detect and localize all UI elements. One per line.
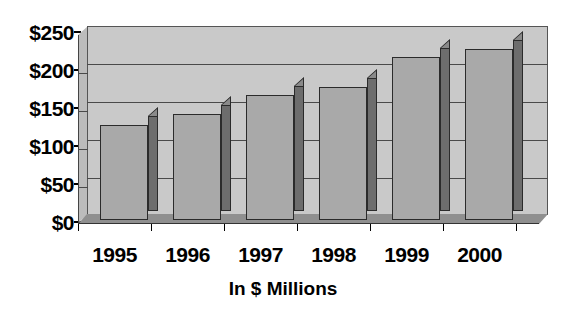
bar-1996[interactable] — [173, 114, 221, 220]
x-tick-mark-2 — [224, 224, 225, 231]
y-tick-label-50: $50 — [40, 174, 74, 195]
bar-chart: $250 $200 $150 $100 $50 $0 — [0, 0, 566, 311]
bar-side-1997 — [294, 86, 304, 211]
x-tick-mark-5 — [443, 224, 444, 231]
bar-1999[interactable] — [392, 57, 440, 220]
plot-floor-front-edge — [78, 223, 539, 224]
x-axis-label-2000: 2000 — [443, 244, 516, 266]
x-tick-mark-6 — [516, 224, 517, 231]
bar-cap-1995 — [100, 116, 148, 125]
plot-area — [78, 26, 548, 223]
gridline-side-200 — [78, 73, 88, 74]
bar-front-1996 — [173, 114, 221, 220]
y-tick-label-100: $100 — [29, 136, 74, 157]
x-tick-mark-3 — [297, 224, 298, 231]
y-tick-label-0: $0 — [52, 212, 74, 233]
bar-side-1999 — [440, 48, 450, 211]
x-axis-label-1995: 1995 — [78, 244, 151, 266]
bar-side-1995 — [148, 116, 158, 211]
bar-front-1997 — [246, 95, 294, 220]
x-axis-title: In $ Millions — [0, 278, 566, 300]
x-axis-label-1996: 1996 — [151, 244, 224, 266]
bar-side-1996 — [221, 105, 231, 211]
y-tick-label-200: $200 — [29, 60, 74, 81]
bar-side-1998 — [367, 78, 377, 211]
bar-front-1995 — [100, 125, 148, 220]
x-tick-mark-4 — [370, 224, 371, 231]
gridline-side-50 — [78, 187, 88, 188]
x-axis-label-1999: 1999 — [370, 244, 443, 266]
y-tick-label-250: $250 — [29, 22, 74, 43]
y-axis-label-group: $250 $200 $150 $100 $50 $0 — [0, 0, 74, 311]
bar-2000[interactable] — [465, 49, 513, 220]
x-axis-label-1997: 1997 — [224, 244, 297, 266]
bar-front-1999 — [392, 57, 440, 220]
bar-1995[interactable] — [100, 125, 148, 220]
x-tick-mark-1 — [151, 224, 152, 231]
x-tick-mark-0 — [78, 224, 79, 231]
gridline-side-150 — [78, 111, 88, 112]
bar-side-2000 — [513, 40, 523, 211]
x-axis-label-1998: 1998 — [297, 244, 370, 266]
bar-1998[interactable] — [319, 87, 367, 220]
bar-front-1998 — [319, 87, 367, 220]
y-tick-label-150: $150 — [29, 98, 74, 119]
gridline-side-100 — [78, 149, 88, 150]
bar-1997[interactable] — [246, 95, 294, 220]
plot-left-wall-edge — [78, 35, 79, 223]
bar-front-2000 — [465, 49, 513, 220]
